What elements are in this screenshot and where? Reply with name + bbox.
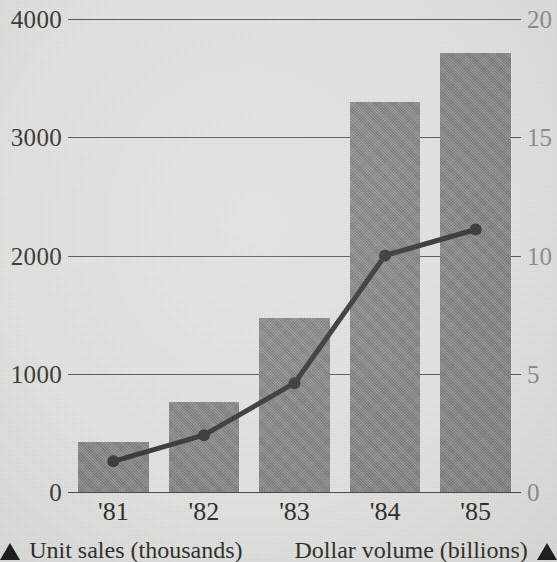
legend-entry-dollar-volume: Dollar volume (billions) [295,537,557,562]
line-marker-85 [470,224,482,236]
line-marker-81 [107,455,119,467]
line-marker-83 [289,377,301,389]
line-series [0,0,557,562]
line-marker-82 [198,429,210,441]
line-marker-84 [379,250,391,262]
legend-label-unit-sales: Unit sales (thousands) [29,537,242,562]
triangle-up-icon [0,543,20,560]
chart-figure: 4000 3000 2000 1000 0 20 15 10 5 0 '81'8… [0,0,557,562]
triangle-up-icon [537,543,557,560]
axis-baseline-0 [68,492,521,493]
plot-area: 4000 3000 2000 1000 0 20 15 10 5 0 '81'8… [0,0,557,562]
chart-legend: Unit sales (thousands) Dollar volume (bi… [0,537,557,562]
line-markers [107,224,481,468]
legend-label-dollar-volume: Dollar volume (billions) [295,537,528,562]
line-path [113,230,475,462]
legend-entry-unit-sales: Unit sales (thousands) [0,537,242,562]
